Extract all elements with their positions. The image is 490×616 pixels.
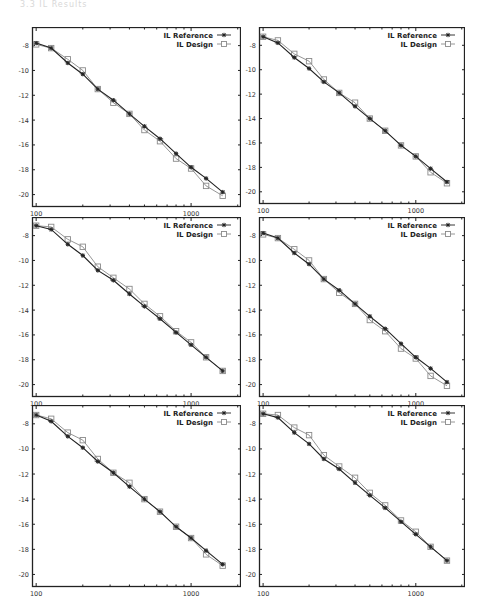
asterisk-marker (322, 457, 326, 461)
y-tick-label: -14 (18, 496, 29, 504)
y-tick-label: -8 (23, 232, 29, 240)
asterisk-marker (111, 278, 115, 282)
asterisk-marker (127, 112, 131, 116)
asterisk-marker (174, 151, 178, 155)
legend-label: IL Reference (387, 410, 437, 418)
asterisk-marker (292, 430, 296, 434)
legend: IL ReferenceIL Design (387, 32, 455, 49)
y-tick-label: -16 (18, 141, 29, 149)
asterisk-marker (204, 355, 208, 359)
legend: IL ReferenceIL Design (163, 410, 231, 427)
y-tick-label: -10 (245, 66, 256, 74)
plot-frame (260, 218, 465, 397)
y-tick-label: -16 (245, 331, 256, 339)
asterisk-marker (383, 327, 387, 331)
legend-label: IL Reference (163, 410, 213, 418)
asterisk-marker (111, 471, 115, 475)
series-il-design (260, 411, 449, 563)
y-tick-label: -16 (245, 139, 256, 147)
asterisk-marker (399, 520, 403, 524)
asterisk-marker (34, 41, 38, 45)
y-tick-label: -8 (250, 420, 256, 428)
asterisk-marker (66, 61, 70, 65)
asterisk-marker (337, 288, 341, 292)
y-tick-label: -14 (245, 115, 256, 123)
asterisk-marker (49, 227, 53, 231)
asterisk-marker (368, 116, 372, 120)
asterisk-marker (158, 509, 162, 513)
y-tick-label: -12 (245, 91, 256, 99)
y-tick-label: -12 (245, 471, 256, 479)
legend-asterisk-icon (446, 411, 450, 415)
asterisk-marker (66, 434, 70, 438)
asterisk-marker (307, 262, 311, 266)
legend-square-icon (446, 42, 451, 47)
y-tick-label: -10 (18, 445, 29, 453)
asterisk-marker (276, 236, 280, 240)
legend-square-icon (222, 42, 227, 47)
legend-label: IL Reference (387, 32, 437, 40)
y-tick-label: -16 (18, 331, 29, 339)
y-tick-label: -10 (18, 257, 29, 265)
legend: IL ReferenceIL Design (387, 410, 455, 427)
plot-frame (33, 218, 241, 397)
legend-label: IL Reference (387, 222, 437, 230)
legend-label: IL Design (400, 419, 437, 427)
y-tick-label: -12 (18, 471, 29, 479)
legend-label: IL Reference (163, 222, 213, 230)
asterisk-marker (96, 87, 100, 91)
y-tick-label: -18 (18, 546, 29, 554)
asterisk-marker (127, 484, 131, 488)
legend: IL ReferenceIL Design (163, 222, 231, 239)
y-tick-label: -14 (18, 117, 29, 125)
asterisk-marker (414, 532, 418, 536)
asterisk-marker (81, 253, 85, 257)
y-tick-label: -18 (18, 356, 29, 364)
asterisk-marker (81, 445, 85, 449)
asterisk-marker (445, 558, 449, 562)
y-tick-label: -20 (18, 191, 29, 199)
y-tick-label: -18 (245, 356, 256, 364)
asterisk-marker (445, 380, 449, 384)
y-tick-label: -20 (18, 571, 29, 579)
asterisk-marker (204, 548, 208, 552)
asterisk-marker (337, 467, 341, 471)
y-tick-label: -8 (23, 42, 29, 50)
asterisk-marker (142, 304, 146, 308)
series-il-reference (261, 412, 449, 563)
asterisk-marker (111, 98, 115, 102)
asterisk-marker (428, 545, 432, 549)
asterisk-marker (221, 369, 225, 373)
y-tick-label: -20 (245, 571, 256, 579)
legend-asterisk-icon (222, 33, 226, 37)
asterisk-marker (276, 41, 280, 45)
asterisk-marker (49, 419, 53, 423)
asterisk-marker (292, 251, 296, 255)
asterisk-marker (174, 330, 178, 334)
asterisk-marker (307, 66, 311, 70)
series-il-design (33, 223, 225, 374)
asterisk-marker (66, 242, 70, 246)
chart-panel-middle-left: -8-10-12-14-16-18-201001000IL ReferenceI… (2, 217, 241, 417)
y-tick-label: -16 (18, 521, 29, 529)
asterisk-marker (96, 459, 100, 463)
y-tick-label: -14 (18, 307, 29, 315)
y-tick-label: -20 (18, 381, 29, 389)
asterisk-marker (189, 165, 193, 169)
asterisk-marker (142, 124, 146, 128)
legend-label: IL Design (176, 231, 213, 239)
asterisk-marker (337, 91, 341, 95)
series-il-reference (34, 223, 225, 373)
asterisk-marker (261, 35, 265, 39)
y-tick-label: -10 (18, 67, 29, 75)
y-tick-label: -20 (245, 381, 256, 389)
legend-asterisk-icon (446, 33, 450, 37)
x-tick-label: 1000 (183, 590, 200, 598)
asterisk-marker (261, 412, 265, 416)
asterisk-marker (445, 180, 449, 184)
legend-label: IL Reference (163, 32, 213, 40)
asterisk-marker (189, 536, 193, 540)
legend-square-icon (446, 232, 451, 237)
legend-square-icon (222, 232, 227, 237)
y-tick-label: -14 (245, 496, 256, 504)
